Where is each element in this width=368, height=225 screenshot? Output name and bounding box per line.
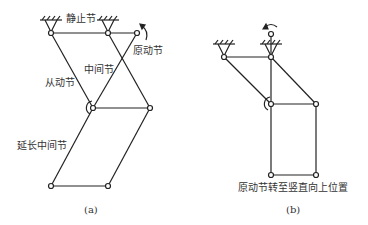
label-driving-link: 原动节 <box>133 46 163 56</box>
ground-support-left-b-icon <box>213 40 235 56</box>
label-fixed-link: 静止节 <box>66 14 96 24</box>
label-driven-link: 从动节 <box>45 78 75 88</box>
figure-b-mechanism <box>213 24 316 175</box>
ground-support-left-icon <box>40 16 62 32</box>
ground-support-right-icon <box>97 16 119 32</box>
caption-a: (a) <box>84 205 98 215</box>
label-extended-middle-link: 延长中间节 <box>17 141 67 151</box>
figure-a-mechanism <box>40 16 150 186</box>
label-middle-link: 中间节 <box>84 65 114 75</box>
label-description-b: 原动节转至竖直向上位置 <box>238 183 348 193</box>
caption-b: (b) <box>286 205 300 215</box>
